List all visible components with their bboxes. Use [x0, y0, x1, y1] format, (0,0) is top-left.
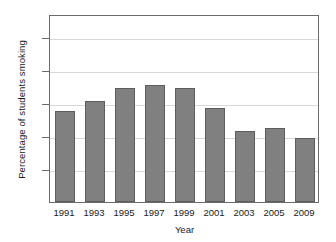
x-tick-label: 2001 [203, 207, 224, 218]
plot-area [49, 15, 319, 203]
plot-inner [50, 16, 318, 202]
bar [55, 111, 75, 202]
x-tick-label: 2005 [263, 207, 284, 218]
bar [145, 85, 165, 202]
x-tick-label: 1997 [143, 207, 164, 218]
y-tick-mark [42, 170, 49, 171]
y-tick-mark [42, 137, 49, 138]
gridline [50, 39, 318, 40]
x-tick-label: 1995 [113, 207, 134, 218]
x-tick-label: 2003 [233, 207, 254, 218]
bar [265, 128, 285, 202]
bar-chart: Percentage of students smoking 102030405… [0, 0, 336, 242]
bar [115, 88, 135, 202]
y-tick-mark [42, 38, 49, 39]
bar [85, 101, 105, 202]
x-tick-label: 1999 [173, 207, 194, 218]
y-axis-title: Percentage of students smoking [16, 20, 27, 200]
x-axis-title: Year [49, 224, 320, 235]
x-tick-label: 2009 [293, 207, 314, 218]
bar [175, 88, 195, 202]
bar [235, 131, 255, 202]
bar [295, 138, 315, 202]
x-tick-label: 1991 [53, 207, 74, 218]
y-tick-mark [42, 71, 49, 72]
y-tick-mark [42, 104, 49, 105]
bar [205, 108, 225, 202]
gridline [50, 72, 318, 73]
x-tick-label: 1993 [83, 207, 104, 218]
